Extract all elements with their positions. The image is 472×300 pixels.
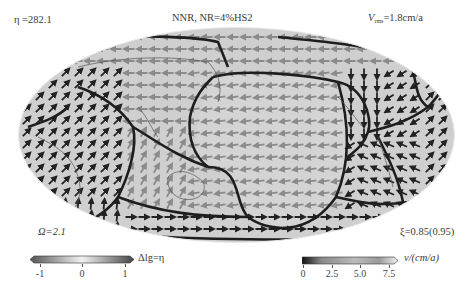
viscosity-colorbar-gradient <box>30 255 134 264</box>
velocity-colorbar-gradient <box>302 256 398 265</box>
vrms-value: =1.8cm/a <box>383 12 422 23</box>
velocity-arrow <box>104 225 105 234</box>
velocity-arrow <box>426 70 432 76</box>
velocity-arrow <box>104 201 105 210</box>
velocity-arrow <box>26 213 27 222</box>
velocity-arrow <box>91 201 92 210</box>
velocity-arrow <box>412 203 420 207</box>
velocity-arrow <box>23 94 29 100</box>
velocity-arrow <box>23 70 29 76</box>
velocity-arrow <box>49 70 55 76</box>
velocity-arrow <box>26 225 27 234</box>
velocity-arrow <box>426 202 432 208</box>
velocity-arrow <box>117 225 118 234</box>
velocity-arrow <box>52 213 53 222</box>
velocity-arrow <box>23 82 29 88</box>
velocity-arrow <box>52 201 53 210</box>
velocity-arrow <box>23 178 29 184</box>
velocity-tick-0: 0 <box>301 268 306 279</box>
map-title: NNR, NR=4%HS2 <box>172 12 253 24</box>
velocity-arrow <box>439 190 445 196</box>
viscosity-tick-neg1: -1 <box>36 268 44 279</box>
velocity-tick-5-0: 5.0 <box>354 268 367 279</box>
vrms-label: Vrms=1.8cm/a <box>368 12 423 27</box>
velocity-colorbar-title: v/(cm/a) <box>404 252 439 264</box>
viscosity-tick-0: 0 <box>80 268 85 279</box>
eta-label: η =282.1 <box>14 14 52 26</box>
velocity-arrow <box>36 70 42 76</box>
velocity-arrow <box>91 225 92 234</box>
velocity-arrow <box>26 201 27 210</box>
omega-label: Ω=2.1 <box>38 226 66 238</box>
velocity-arrow <box>78 225 79 234</box>
velocity-arrow <box>439 202 445 208</box>
velocity-arrow <box>439 82 445 88</box>
velocity-arrow <box>117 213 118 222</box>
viscosity-colorbar-title: Δlg=η <box>138 252 164 264</box>
velocity-arrow <box>426 190 432 196</box>
velocity-arrow <box>65 213 66 222</box>
map-svg <box>18 27 455 243</box>
velocity-map <box>18 27 455 243</box>
velocity-arrow <box>91 213 92 222</box>
velocity-arrow <box>39 213 40 222</box>
velocity-arrow <box>78 213 79 222</box>
xi-label: ξ=0.85(0.95) <box>400 226 454 238</box>
velocity-arrow <box>117 201 118 210</box>
velocity-arrow <box>439 70 445 76</box>
velocity-arrow <box>39 201 40 210</box>
velocity-tick-7-5: 7.5 <box>383 268 396 279</box>
viscosity-tick-1: 1 <box>123 268 128 279</box>
velocity-arrow <box>36 190 42 196</box>
velocity-tick-2-5: 2.5 <box>326 268 339 279</box>
velocity-arrow <box>23 190 29 196</box>
velocity-arrow <box>439 178 445 184</box>
